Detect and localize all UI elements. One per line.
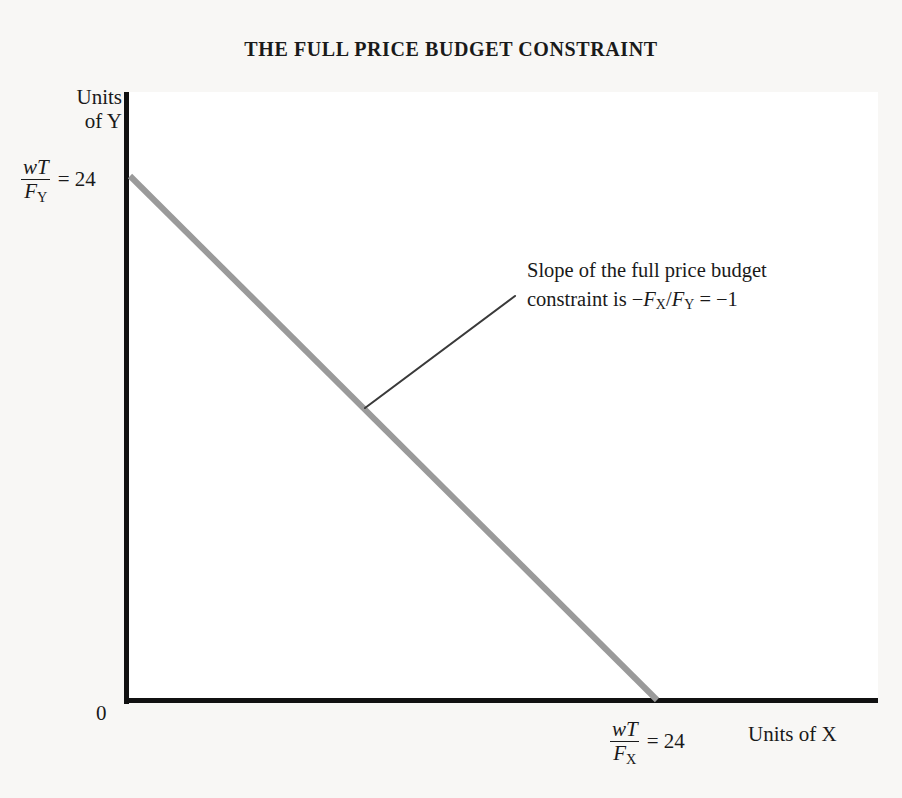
- slope-fx-base: F: [643, 288, 656, 310]
- x-intercept-label: wT FX = 24: [609, 719, 685, 765]
- x-axis-line: [124, 698, 878, 703]
- slope-fx-subscript: X: [656, 298, 666, 313]
- slope-minus-sign: −: [632, 288, 644, 310]
- y-intercept-label: wT FY = 24: [20, 157, 96, 203]
- y-intercept-numerator: wT: [20, 157, 52, 179]
- y-axis-label-line2: of Y: [85, 109, 122, 133]
- x-intercept-denominator-subscript: X: [626, 751, 636, 767]
- y-intercept-value: = 24: [58, 167, 96, 192]
- y-intercept-fraction: wT FY: [20, 157, 52, 203]
- y-axis-line: [124, 92, 129, 704]
- y-intercept-denominator: FY: [21, 179, 50, 202]
- y-axis-label-line1: Units: [76, 85, 122, 109]
- x-intercept-denominator-base: F: [613, 741, 626, 765]
- slope-annotation-line2-prefix: constraint is: [527, 288, 632, 310]
- x-axis-label: Units of X: [748, 723, 898, 747]
- slope-annotation-formula: −FX/FY = −1: [632, 288, 738, 310]
- slope-annotation-line1: Slope of the full price budget: [527, 259, 767, 281]
- y-axis-label: Units of Y: [22, 86, 122, 133]
- x-intercept-fraction: wT FX: [609, 719, 641, 765]
- slope-result: = −1: [694, 288, 738, 310]
- slope-fy-base: F: [672, 288, 685, 310]
- y-intercept-denominator-subscript: Y: [37, 189, 47, 205]
- x-intercept-value: = 24: [647, 729, 685, 754]
- origin-label: 0: [96, 702, 107, 726]
- x-intercept-numerator: wT: [609, 719, 641, 741]
- figure-canvas: THE FULL PRICE BUDGET CONSTRAINT Units o…: [0, 0, 902, 798]
- page-title: THE FULL PRICE BUDGET CONSTRAINT: [0, 38, 902, 61]
- slope-annotation: Slope of the full price budget constrain…: [527, 256, 867, 314]
- x-intercept-denominator: FX: [610, 741, 639, 764]
- slope-fy-subscript: Y: [684, 298, 694, 313]
- y-intercept-denominator-base: F: [24, 179, 37, 203]
- plot-area: [127, 92, 878, 702]
